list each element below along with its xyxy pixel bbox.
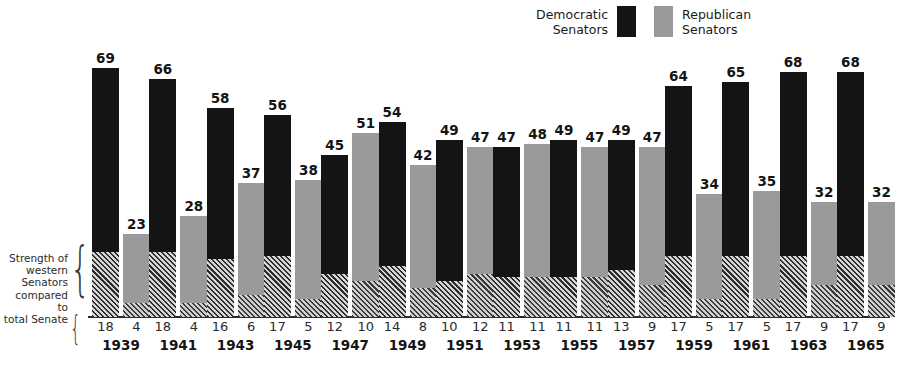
year-label-1949: 1949 <box>379 337 437 353</box>
year-label-1961: 1961 <box>722 337 780 353</box>
bar-dem-1959: 64 <box>665 86 692 317</box>
western-count-dem-1963: 17 <box>780 319 807 334</box>
bar-western-hatch <box>149 252 176 317</box>
bar-value-label: 45 <box>325 137 344 153</box>
bar-western-hatch <box>295 299 322 317</box>
western-count-dem-1945: 17 <box>264 319 291 334</box>
bar-rep-1961: 35 <box>753 191 780 317</box>
bar-dem-1961: 65 <box>722 82 749 317</box>
bar-western-hatch <box>753 299 780 317</box>
bar-value-label: 38 <box>299 162 318 178</box>
bar-western-hatch <box>123 303 150 317</box>
bar-value-label: 66 <box>153 61 172 77</box>
western-count-rep-1963: 9 <box>811 319 838 334</box>
bar-western-hatch <box>207 259 234 317</box>
bar-value-label: 32 <box>815 184 834 200</box>
western-count-dem-1953: 11 <box>493 319 520 334</box>
bar-value-label: 48 <box>528 126 547 142</box>
bar-western-hatch <box>722 256 749 317</box>
western-count-dem-1941: 18 <box>149 319 176 334</box>
bar-western-hatch <box>639 285 666 317</box>
western-count-dem-1961: 17 <box>722 319 749 334</box>
bar-western-hatch <box>238 295 265 317</box>
bar-western-hatch <box>608 270 635 317</box>
western-count-rep-1965: 9 <box>868 319 895 334</box>
bar-rep-1941: 28 <box>180 216 207 317</box>
western-count-rep-1939: 4 <box>123 319 150 334</box>
bar-rep-1945: 38 <box>295 180 322 317</box>
year-label-1941: 1941 <box>149 337 207 353</box>
bar-dem-1949: 54 <box>379 122 406 317</box>
bar-value-label: 28 <box>184 198 203 214</box>
western-count-rep-1941: 4 <box>180 319 207 334</box>
western-count-dem-1939: 18 <box>92 319 119 334</box>
western-count-dem-1949: 14 <box>379 319 406 334</box>
bar-value-label: 34 <box>700 176 719 192</box>
bar-western-hatch <box>550 277 577 317</box>
bar-value-label: 47 <box>585 129 604 145</box>
bar-value-label: 49 <box>612 122 631 138</box>
bar-western-hatch <box>493 277 520 317</box>
bar-western-hatch <box>379 266 406 317</box>
bar-dem-1939: 69 <box>92 68 119 317</box>
bar-western-hatch <box>811 285 838 317</box>
bar-western-hatch <box>264 256 291 317</box>
bar-value-label: 51 <box>356 115 375 131</box>
year-label-1945: 1945 <box>264 337 322 353</box>
bar-western-hatch <box>436 281 463 317</box>
bar-western-hatch <box>524 277 551 317</box>
western-count-rep-1943: 6 <box>238 319 265 334</box>
bar-value-label: 68 <box>784 54 803 70</box>
bar-rep-1939: 23 <box>123 234 150 317</box>
bar-rep-1951: 47 <box>467 147 494 317</box>
year-label-1947: 1947 <box>321 337 379 353</box>
year-label-1955: 1955 <box>550 337 608 353</box>
bar-western-hatch <box>467 274 494 317</box>
bar-dem-1947: 45 <box>321 155 348 317</box>
bar-western-hatch <box>352 281 379 317</box>
plot-area: 6918234193966182841941581637619435617385… <box>0 0 908 377</box>
bar-rep-1963: 32 <box>811 202 838 317</box>
bar-rep-1943: 37 <box>238 183 265 317</box>
bar-western-hatch <box>665 256 692 317</box>
bar-value-label: 32 <box>872 184 891 200</box>
bar-fill <box>295 180 322 317</box>
western-count-dem-1959: 17 <box>665 319 692 334</box>
year-label-1959: 1959 <box>665 337 723 353</box>
western-count-rep-1945: 5 <box>295 319 322 334</box>
western-count-dem-1965: 17 <box>837 319 864 334</box>
bar-dem-1951: 49 <box>436 140 463 317</box>
bar-dem-1941: 66 <box>149 79 176 317</box>
bar-western-hatch <box>696 299 723 317</box>
bar-western-hatch <box>868 285 895 317</box>
bar-value-label: 56 <box>268 97 287 113</box>
western-count-rep-1949: 8 <box>410 319 437 334</box>
year-label-1963: 1963 <box>780 337 838 353</box>
year-label-1943: 1943 <box>207 337 265 353</box>
bar-rep-1947: 51 <box>352 133 379 317</box>
year-label-1953: 1953 <box>493 337 551 353</box>
bar-western-hatch <box>92 252 119 317</box>
bar-value-label: 54 <box>383 104 402 120</box>
bar-rep-1957: 47 <box>639 147 666 317</box>
bar-rep-1949: 42 <box>410 165 437 317</box>
bar-value-label: 58 <box>211 90 230 106</box>
bar-value-label: 69 <box>96 50 115 66</box>
western-count-dem-1947: 12 <box>321 319 348 334</box>
bar-western-hatch <box>581 277 608 317</box>
bar-dem-1965: 68 <box>837 72 864 317</box>
western-count-rep-1955: 11 <box>581 319 608 334</box>
western-count-dem-1955: 11 <box>550 319 577 334</box>
bar-western-hatch <box>410 288 437 317</box>
year-label-1939: 1939 <box>92 337 150 353</box>
western-count-rep-1959: 5 <box>696 319 723 334</box>
bar-dem-1963: 68 <box>780 72 807 317</box>
bar-value-label: 47 <box>497 129 516 145</box>
bar-value-label: 37 <box>242 165 261 181</box>
bar-value-label: 35 <box>757 173 776 189</box>
bar-dem-1957: 49 <box>608 140 635 317</box>
year-label-1951: 1951 <box>436 337 494 353</box>
bar-value-label: 49 <box>440 122 459 138</box>
bar-rep-1955: 47 <box>581 147 608 317</box>
western-count-rep-1947: 10 <box>352 319 379 334</box>
